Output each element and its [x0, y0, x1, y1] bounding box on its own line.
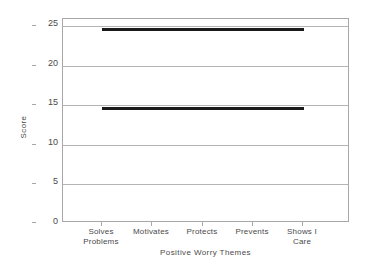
y-tick-label-20: 20: [36, 58, 58, 68]
y-tick-mark-20: [32, 65, 36, 66]
x-tick-mark-prevents: [252, 222, 253, 226]
x-tick-mark-solves-problems: [101, 222, 102, 226]
y-tick-mark-10: [32, 144, 36, 145]
gridline-25: [63, 26, 348, 27]
y-tick-label-25: 25: [36, 18, 58, 28]
gridline-10: [63, 145, 348, 146]
y-tick-mark-25: [32, 25, 36, 26]
x-tick-label-line2: Care: [267, 237, 337, 247]
plot-area: [62, 18, 349, 222]
y-tick-mark-5: [32, 183, 36, 184]
x-tick-mark-motivates: [151, 222, 152, 226]
x-tick-mark-shows-i-care: [302, 222, 303, 226]
y-tick-label-5: 5: [36, 176, 58, 186]
x-tick-label-line1: Shows I: [267, 227, 337, 237]
y-tick-label-0: 0: [36, 216, 58, 226]
data-line-upper: [102, 28, 304, 31]
y-tick-label-15: 15: [36, 97, 58, 107]
gridline-5: [63, 184, 348, 185]
y-tick-mark-0: [32, 222, 36, 223]
y-axis-tick-labels: 0 5 10 15 20 25: [30, 18, 58, 222]
gridline-20: [63, 66, 348, 67]
x-tick-label-line2: Problems: [66, 237, 136, 247]
chart-figure: Score 0 5 10 15 20 25 Solves Problems Mo…: [0, 0, 367, 266]
x-tick-label-shows-i-care: Shows I Care: [267, 227, 337, 246]
y-tick-mark-15: [32, 104, 36, 105]
y-tick-label-10: 10: [36, 137, 58, 147]
x-axis-title: Positive Worry Themes: [62, 248, 349, 257]
gridline-15: [63, 105, 348, 106]
data-line-lower: [102, 107, 304, 110]
x-tick-mark-protects: [202, 222, 203, 226]
